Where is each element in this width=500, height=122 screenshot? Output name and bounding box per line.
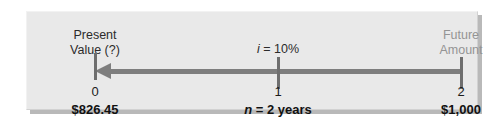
term-symbol: n: [244, 102, 252, 117]
term-equals: =: [252, 102, 267, 117]
period-number-0: 0: [65, 84, 125, 99]
tick-period-0: [94, 53, 97, 80]
term-label: n = 2 years: [218, 102, 338, 117]
diagram-panel: Present Value (?) Future Amount i = 10% …: [26, 11, 478, 110]
timeline-axis: [103, 69, 462, 74]
interest-rate-value: 10%: [274, 42, 299, 56]
arrow-left-icon: [95, 63, 111, 79]
future-value-amount: $1,000: [406, 102, 500, 117]
future-amount-label-line2: Amount: [401, 43, 500, 58]
interest-rate-label: i = 10%: [218, 42, 338, 56]
interest-rate-equals: =: [260, 42, 274, 56]
time-value-of-money-diagram: Present Value (?) Future Amount i = 10% …: [0, 0, 500, 122]
term-value: 2 years: [267, 102, 312, 117]
period-number-1: 1: [248, 84, 308, 99]
present-value-label-line1: Present: [35, 28, 155, 43]
future-amount-label: Future Amount: [401, 28, 500, 58]
present-value-amount: $826.45: [40, 102, 150, 117]
future-amount-label-line1: Future: [401, 28, 500, 43]
period-number-2: 2: [431, 84, 491, 99]
